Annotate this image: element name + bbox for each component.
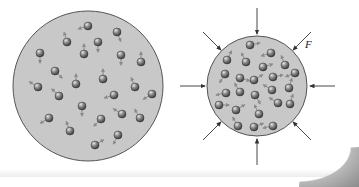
gas-molecule: [114, 131, 122, 139]
gas-molecule: [285, 84, 293, 92]
gas-molecule: [268, 86, 276, 94]
gas-molecule: [131, 83, 139, 91]
gas-molecule: [66, 127, 74, 135]
force-arrow-icon: [293, 122, 311, 140]
gas-molecule: [97, 115, 105, 123]
gas-molecule: [113, 28, 121, 36]
gas-molecule: [215, 101, 223, 109]
force-arrow-icon: [203, 122, 221, 140]
gas-molecule: [137, 58, 145, 66]
force-label-F: F: [305, 38, 312, 50]
gas-molecule: [99, 75, 107, 83]
left-container-uncompressed: [13, 11, 163, 161]
gas-molecule: [236, 74, 244, 82]
gas-molecule: [281, 61, 289, 69]
gas-molecule: [274, 99, 282, 107]
gas-molecule: [148, 90, 156, 98]
gas-molecule: [94, 38, 102, 46]
gas-molecule: [223, 56, 231, 64]
right-container-compressed: [207, 36, 307, 136]
gas-molecule: [286, 100, 294, 108]
gas-molecule: [110, 91, 118, 99]
page-shadow: [0, 169, 349, 177]
gas-molecule: [222, 89, 230, 97]
gas-molecule: [118, 110, 126, 118]
gas-molecule: [291, 69, 299, 77]
gas-molecule: [250, 76, 258, 84]
gas-molecule: [255, 110, 263, 118]
gas-molecule: [251, 91, 259, 99]
gas-molecule: [267, 49, 275, 57]
gas-molecule: [221, 70, 229, 78]
gas-molecule: [232, 106, 240, 114]
gas-molecule: [91, 141, 99, 149]
gas-molecule: [80, 50, 88, 58]
gas-molecule: [36, 49, 44, 57]
gas-molecule: [269, 73, 277, 81]
gas-molecule: [34, 83, 42, 91]
gas-molecule: [117, 51, 125, 59]
gas-molecule: [246, 41, 254, 49]
gas-molecule: [236, 88, 244, 96]
gas-molecule: [250, 123, 258, 131]
gas-molecule: [45, 114, 53, 122]
gas-molecule: [269, 122, 277, 130]
gas-molecule: [51, 67, 59, 75]
gas-molecule: [242, 58, 250, 66]
gas-molecule: [259, 63, 267, 71]
force-arrow-icon: [203, 32, 221, 50]
gas-molecule: [136, 114, 144, 122]
gas-molecule: [78, 102, 86, 110]
gas-molecule: [72, 80, 80, 88]
gas-molecule: [63, 38, 71, 46]
gas-molecule: [55, 92, 63, 100]
gas-molecule: [84, 22, 92, 30]
gas-molecule: [234, 122, 242, 130]
